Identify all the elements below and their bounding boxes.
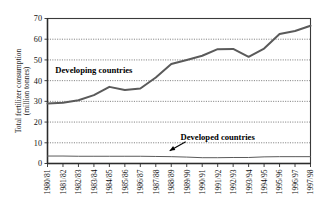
y-tick-label-50: 50 xyxy=(34,56,42,65)
chart-canvas: 010203040506070Total fertilizer consumpt… xyxy=(0,0,324,211)
x-tick-label-4: 1984/85 xyxy=(105,169,114,194)
x-tick-label-9: 1989/90 xyxy=(183,169,192,194)
fertilizer-consumption-chart: 010203040506070Total fertilizer consumpt… xyxy=(0,0,324,211)
y-tick-label-10: 10 xyxy=(34,139,42,148)
x-tick-label-17: 1997/98 xyxy=(306,169,315,194)
y-axis-title-line2: (million tonnes) xyxy=(22,66,31,115)
y-tick-label-0: 0 xyxy=(38,159,42,168)
x-tick-label-1: 1981/82 xyxy=(59,169,68,194)
annotation-label-developed: Developed countries xyxy=(181,132,256,142)
x-tick-label-13: 1993/94 xyxy=(245,169,254,194)
y-tick-label-40: 40 xyxy=(34,77,42,86)
x-tick-label-14: 1994/95 xyxy=(260,169,269,194)
series-group xyxy=(48,26,311,158)
y-tick-label-70: 70 xyxy=(34,14,42,23)
y-tick-label-60: 60 xyxy=(34,35,42,44)
x-axis: 1980/811981/821982/831983/841984/851985/… xyxy=(43,164,315,195)
x-tick-label-16: 1996/97 xyxy=(291,169,300,194)
y-axis-title: Total fertilizer consumption(million ton… xyxy=(14,48,31,133)
annotation-label-developing: Developing countries xyxy=(55,65,133,75)
x-tick-label-8: 1988/89 xyxy=(167,169,176,194)
gridlines xyxy=(48,19,311,143)
plot-frame xyxy=(48,19,311,164)
x-tick-label-0: 1980/81 xyxy=(43,169,52,194)
x-tick-label-10: 1990/91 xyxy=(198,169,207,194)
x-tick-label-15: 1995/96 xyxy=(275,169,284,194)
y-axis: 010203040506070 xyxy=(34,14,48,168)
x-tick-label-6: 1986/87 xyxy=(136,169,145,194)
x-tick-label-3: 1983/84 xyxy=(90,169,99,194)
x-tick-label-12: 1992/93 xyxy=(229,169,238,194)
y-tick-label-30: 30 xyxy=(34,97,42,106)
x-tick-label-7: 1987/88 xyxy=(152,169,161,194)
series-line-developed xyxy=(48,156,311,158)
x-tick-label-5: 1985/86 xyxy=(121,169,130,194)
y-tick-label-20: 20 xyxy=(34,118,42,127)
x-tick-label-2: 1982/83 xyxy=(74,169,83,194)
x-tick-label-11: 1991/92 xyxy=(214,169,223,194)
